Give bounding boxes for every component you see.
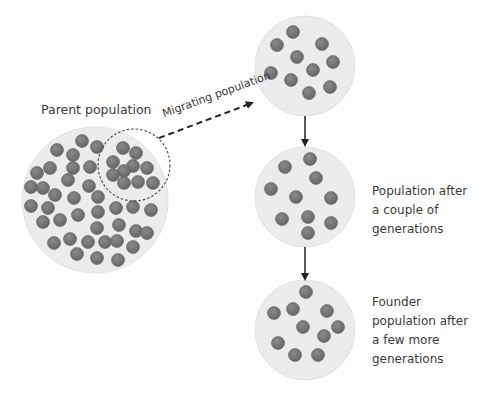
individual-dot: [321, 305, 334, 318]
label-line: population after: [372, 312, 468, 331]
individual-dot: [62, 174, 75, 187]
individual-dot: [67, 149, 80, 162]
individual-dot: [312, 349, 325, 362]
individual-dot: [302, 227, 315, 240]
individual-dot: [272, 337, 285, 350]
individual-dot: [72, 209, 85, 222]
individual-dot: [25, 181, 38, 194]
label-line: a couple of: [372, 201, 467, 220]
individual-dot: [42, 202, 55, 215]
individual-dot: [91, 222, 104, 235]
individual-dot: [271, 39, 284, 52]
population-circle: [255, 16, 355, 116]
individual-dot: [290, 191, 303, 204]
individual-dot: [327, 56, 340, 69]
individual-dot: [84, 161, 97, 174]
label-line: generations: [372, 350, 468, 369]
individual-dot: [324, 81, 337, 94]
individual-dot: [112, 254, 125, 267]
individual-dot: [318, 330, 331, 343]
individual-dot: [107, 156, 120, 169]
individual-dot: [289, 349, 302, 362]
individual-dot: [127, 201, 140, 214]
label-line: a few more: [372, 331, 468, 350]
individual-dot: [68, 192, 81, 205]
individual-dot: [310, 172, 323, 185]
after-couple-generations-label: Population after a couple of generations: [372, 182, 467, 239]
individual-dot: [118, 177, 131, 190]
individual-dot: [287, 303, 300, 316]
individual-dot: [291, 51, 304, 64]
individual-dot: [325, 217, 338, 230]
parent-population-text: Parent population: [41, 100, 152, 119]
individual-dot: [316, 38, 329, 51]
individual-dot: [287, 26, 300, 39]
individual-dot: [92, 191, 105, 204]
founder-population-label: Founder population after a few more gene…: [372, 293, 468, 369]
individual-dot: [76, 135, 89, 148]
individual-dot: [300, 286, 313, 299]
individual-dot: [25, 200, 38, 213]
individual-dot: [64, 233, 77, 246]
individual-dot: [297, 321, 310, 334]
individual-dot: [147, 177, 160, 190]
individual-dot: [303, 87, 316, 100]
individual-dot: [31, 167, 44, 180]
individual-dot: [49, 189, 62, 202]
after-few-more-generations-population: [255, 280, 355, 380]
individual-dot: [304, 153, 317, 166]
individual-dot: [113, 219, 126, 232]
individual-dot: [141, 227, 154, 240]
individual-dot: [276, 213, 289, 226]
individual-dot: [127, 241, 140, 254]
individual-dot: [132, 176, 145, 189]
individual-dot: [145, 204, 158, 217]
individual-dot: [44, 162, 57, 175]
individual-dot: [82, 236, 95, 249]
individual-dot: [91, 141, 104, 154]
label-line: generations: [372, 220, 467, 239]
individual-dot: [130, 147, 143, 160]
individual-dot: [268, 307, 281, 320]
individual-dot: [302, 211, 315, 224]
individual-dot: [117, 142, 130, 155]
individual-dot: [110, 202, 123, 215]
individual-dot: [48, 237, 61, 250]
individual-dot: [325, 192, 338, 205]
label-line: Population after: [372, 182, 467, 201]
label-line: Founder: [372, 293, 468, 312]
individual-dot: [141, 162, 154, 175]
individual-dot: [83, 180, 96, 193]
individual-dot: [51, 144, 64, 157]
individual-dot: [99, 236, 112, 249]
parent-population-label: Parent population: [41, 100, 152, 119]
individual-dot: [37, 216, 50, 229]
individual-dot: [67, 162, 80, 175]
individual-dot: [332, 321, 345, 334]
after-couple-generations-population: [255, 147, 355, 247]
populations-layer: [22, 16, 355, 380]
individual-dot: [279, 161, 292, 174]
individual-dot: [71, 248, 84, 261]
individual-dot: [92, 206, 105, 219]
founder-initial-population: [255, 16, 355, 116]
individual-dot: [54, 214, 67, 227]
individual-dot: [265, 183, 278, 196]
individual-dot: [307, 64, 320, 77]
individual-dot: [37, 182, 50, 195]
individual-dot: [91, 252, 104, 265]
individual-dot: [285, 74, 298, 87]
individual-dot: [107, 169, 120, 182]
parent-population: [22, 127, 168, 273]
individual-dot: [111, 235, 124, 248]
